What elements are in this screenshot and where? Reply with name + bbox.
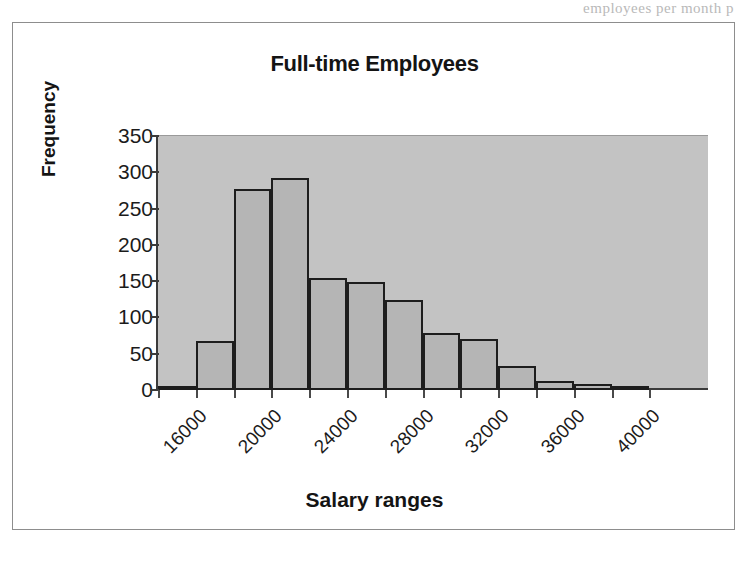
histogram-bar — [158, 386, 196, 390]
y-axis-tick-mark — [150, 135, 159, 137]
y-axis-tick-mark — [150, 208, 159, 210]
histogram-bar — [309, 278, 347, 390]
x-axis-tick-mark — [385, 390, 387, 398]
histogram-bar — [536, 381, 574, 390]
y-axis-tick-mark — [150, 280, 159, 282]
x-axis-tick-mark — [309, 390, 311, 398]
x-axis-tick-mark — [649, 390, 651, 398]
x-axis-tick-mark — [423, 390, 425, 398]
y-axis-tick-labels: 050100150200250300350 — [95, 23, 153, 529]
x-axis-tick-mark — [498, 390, 500, 398]
x-axis-tick-mark — [460, 390, 462, 398]
y-axis-tick-mark — [150, 171, 159, 173]
x-axis-tick-mark — [158, 390, 160, 398]
histogram-bar — [347, 282, 385, 390]
y-axis-tick-label: 250 — [105, 198, 153, 219]
histogram-bars — [158, 136, 708, 390]
histogram-bar — [271, 178, 309, 390]
x-axis-tick-mark — [536, 390, 538, 398]
histogram-bar — [498, 366, 536, 390]
y-axis-tick-label: 50 — [105, 343, 153, 364]
x-axis-tick-mark — [612, 390, 614, 398]
y-axis-title: Frequency — [38, 29, 60, 229]
y-axis-tick-mark — [150, 316, 159, 318]
y-axis-tick-label: 150 — [105, 270, 153, 291]
histogram-bar — [460, 339, 498, 390]
x-axis-tick-mark — [271, 390, 273, 398]
y-axis-tick-label: 300 — [105, 161, 153, 182]
scanned-page-bleed-text: employees per month p — [0, 0, 748, 20]
y-axis-tick-label: 350 — [105, 125, 153, 146]
histogram-bar — [612, 386, 650, 390]
x-axis-tick-mark — [574, 390, 576, 398]
y-axis-tick-label: 0 — [105, 379, 153, 400]
histogram-bar — [234, 189, 272, 390]
histogram-bar — [423, 333, 461, 390]
chart-figure-frame: Full-time Employees Frequency 0501001502… — [12, 22, 735, 530]
x-axis-tick-mark — [196, 390, 198, 398]
histogram-bar — [574, 384, 612, 390]
histogram-bar — [385, 300, 423, 390]
histogram-bar — [196, 341, 234, 390]
x-axis-tick-mark — [347, 390, 349, 398]
y-axis-tick-mark — [150, 353, 159, 355]
y-axis-tick-label: 100 — [105, 306, 153, 327]
y-axis-tick-label: 200 — [105, 234, 153, 255]
x-axis-tick-mark — [234, 390, 236, 398]
y-axis-tick-mark — [150, 244, 159, 246]
